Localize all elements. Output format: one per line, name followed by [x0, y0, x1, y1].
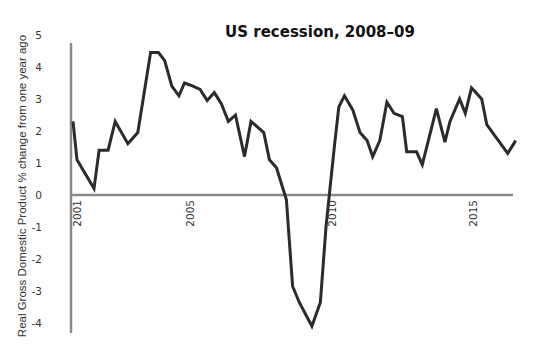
y-tick-label: -2 — [32, 253, 42, 265]
gdp-series-line — [73, 53, 516, 327]
y-tick-label: 0 — [35, 189, 42, 201]
x-tick-label: 2001 — [71, 200, 83, 227]
gdp-line-chart: US recession, 2008–09 Real Gross Domesti… — [0, 0, 534, 356]
x-tick-label: 2015 — [467, 200, 479, 227]
chart-title: US recession, 2008–09 — [225, 23, 415, 41]
y-tick-label: -4 — [32, 317, 43, 329]
y-tick-label: 4 — [35, 61, 42, 73]
y-tick-label: 2 — [35, 125, 42, 137]
y-tick-label: 3 — [35, 93, 42, 105]
y-axis-ticks: 543210-1-2-3-4 — [32, 29, 43, 329]
y-tick-label: 1 — [35, 157, 42, 169]
y-tick-label: 5 — [35, 29, 42, 41]
y-axis-label: Real Gross Domestic Product % change fro… — [16, 35, 28, 337]
y-tick-label: -3 — [32, 285, 42, 297]
y-tick-label: -1 — [32, 221, 42, 233]
x-axis-ticks: 2001200520102015 — [71, 200, 479, 227]
x-tick-label: 2005 — [184, 200, 196, 227]
